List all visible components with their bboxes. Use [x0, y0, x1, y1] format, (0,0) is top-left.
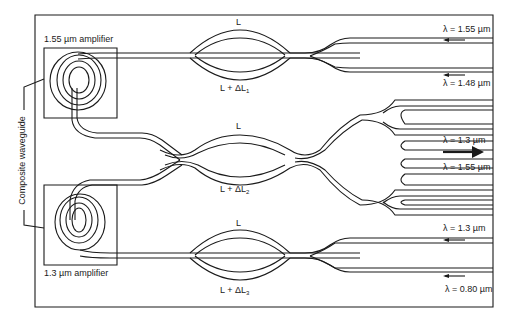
mzi-2-lower-arm-label: L + ΔL2 — [220, 185, 249, 195]
port-label-4: λ = 1.55 µm — [443, 163, 490, 172]
port-label-2: λ = 1.48 µm — [443, 79, 490, 88]
port-label-6: λ = 0.80 µm — [445, 285, 492, 294]
amplifier-label-1300: 1.3 µm amplifier — [44, 269, 108, 278]
mzi-3-lower-arm-label: L + ΔL3 — [220, 286, 249, 296]
composite-waveguide-label: Composite waveguide — [18, 113, 27, 209]
leader-line-bottom — [24, 210, 44, 228]
port-label-5: λ = 1.3 µm — [443, 224, 485, 233]
mzi-3-upper-arm-label: L — [236, 219, 241, 228]
port-label-1: λ = 1.55 µm — [443, 25, 490, 34]
leader-line-top — [24, 79, 44, 110]
mzi-1 — [190, 30, 493, 80]
amplifier-label-1550: 1.55 µm amplifier — [44, 35, 113, 44]
mzi-1-upper-arm-label: L — [236, 18, 241, 27]
mzi-2-upper-arm-label: L — [236, 122, 241, 131]
chip-boundary — [35, 15, 493, 307]
mzi-2 — [160, 115, 362, 205]
mzi-1-lower-arm-label: L + ΔL1 — [220, 84, 249, 94]
port-label-3: λ = 1.3 µm — [443, 136, 485, 145]
spiral-1300 — [55, 160, 360, 258]
mzi-3 — [190, 230, 493, 280]
